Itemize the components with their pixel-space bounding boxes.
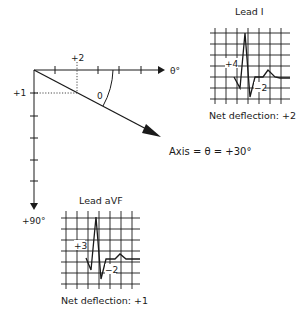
lead-avf-positive-label: +3 [74,241,87,251]
lead-i-negative-label: −2 [254,83,267,93]
lead-i-net-deflection: Net deflection: +2 [209,110,296,121]
axis-equation: Axis = θ = +30° [169,146,251,157]
axis-vector-arrow-icon [142,124,161,137]
y-marker-label: +1 [13,88,26,98]
vertical-axis-label: +90° [22,216,46,226]
lead-i-panel: Lead I +4 −2 Net deflection: +2 [209,6,296,121]
hexaxial-axis-diagram: +2 +1 0 θ° +90° Axis = θ = +30° Lead I +… [0,0,302,313]
lead-avf-panel: Lead aVF +3 −2 Net deflection: +1 [61,195,148,306]
lead-avf-net-deflection: Net deflection: +1 [61,295,148,306]
horizontal-axis-label: θ° [170,66,180,76]
angle-label: 0 [97,91,103,101]
x-marker-label: +2 [71,53,84,63]
lead-avf-title: Lead aVF [79,195,123,206]
lead-avf-negative-label: −2 [105,265,118,275]
horizontal-arrow-icon [158,66,165,74]
vertical-arrow-icon [30,203,38,210]
lead-i-positive-label: +4 [225,59,239,69]
lead-i-title: Lead I [235,6,264,17]
